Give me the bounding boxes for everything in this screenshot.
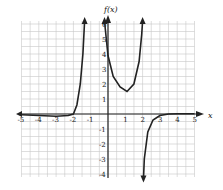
curve-arrow-icon [140, 17, 146, 24]
x-tick-label: -2 [69, 116, 76, 124]
x-tick-label: -5 [18, 116, 25, 124]
curve-arrow-icon [140, 176, 146, 183]
function-graph: x f(x) -5-4-3-2-112345 654321-1-2-3-4 [0, 0, 223, 190]
x-tick-label: -4 [35, 116, 42, 124]
x-tick-label: -1 [87, 116, 94, 124]
x-tick-label: 4 [175, 116, 180, 124]
y-tick-label: 2 [102, 81, 106, 89]
y-axis-label: f(x) [103, 5, 118, 14]
x-tick-label: -3 [52, 116, 59, 124]
curve-arrow-icon [82, 17, 88, 24]
y-tick-label: -3 [99, 156, 106, 164]
y-tick-label: -2 [99, 141, 106, 149]
x-axis-label: x [208, 111, 213, 120]
y-tick-label: -1 [99, 126, 106, 134]
y-tick-labels: 654321-1-2-3-4 [99, 21, 107, 179]
y-tick-label: 1 [102, 96, 106, 104]
y-tick-label: -4 [99, 171, 106, 179]
x-tick-label: 5 [193, 116, 197, 124]
x-axis-arrow-icon [196, 111, 204, 117]
y-tick-label: 3 [102, 66, 106, 74]
x-tick-label: 2 [141, 116, 145, 124]
y-tick-label: 4 [102, 51, 107, 59]
curve [22, 21, 85, 116]
x-tick-labels: -5-4-3-2-112345 [18, 116, 197, 124]
x-tick-label: 1 [123, 116, 127, 124]
